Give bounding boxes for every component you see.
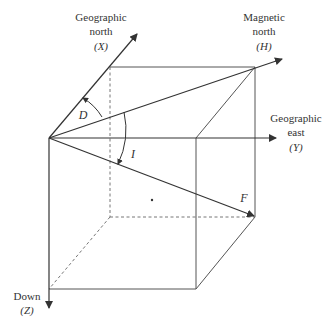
y-axis-label-line2: east <box>287 126 304 138</box>
inclination-label: I <box>130 147 136 161</box>
total-field-label: F <box>239 191 248 205</box>
hidden-bottom-left-diagonal <box>49 217 110 289</box>
z-axis-label-line1: Down <box>14 290 41 302</box>
z-axis-symbol: (Z) <box>20 304 34 317</box>
y-axis-label-line1: Geographic <box>270 112 321 124</box>
x-axis-label-line2: north <box>89 25 113 37</box>
h-axis-label-line1: Magnetic <box>243 11 285 23</box>
f-vector-arrow <box>49 138 254 216</box>
y-axis-symbol: (Y) <box>289 141 303 154</box>
center-dot <box>151 199 153 201</box>
declination-label: D <box>78 108 88 122</box>
cube-bottom-right-diagonal <box>196 217 255 289</box>
x-axis-label-line1: Geographic <box>75 11 126 23</box>
h-axis-label-line2: north <box>252 25 276 37</box>
x-axis-symbol: (X) <box>94 40 108 53</box>
cube-hidden-edges <box>49 67 255 289</box>
cube-edges <box>49 67 255 289</box>
h-axis-symbol: (H) <box>256 40 272 53</box>
geomagnetic-diagram: Geographic north (X) Magnetic north (H) … <box>0 0 334 326</box>
